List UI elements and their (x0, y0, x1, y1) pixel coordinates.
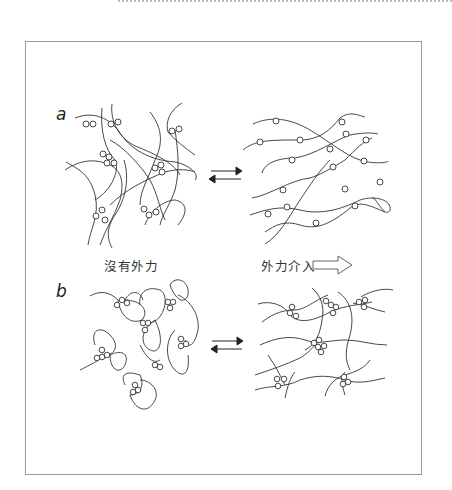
clustered-polymer-network (65, 103, 196, 248)
equilibrium-arrows-icon (211, 337, 243, 353)
hollow-right-arrow-icon (313, 256, 352, 274)
looped-micelle-clusters (80, 280, 198, 409)
equilibrium-arrows-icon (209, 167, 242, 183)
stretched-polymer-chains (243, 114, 390, 244)
bridged-polymer-network (255, 288, 393, 398)
